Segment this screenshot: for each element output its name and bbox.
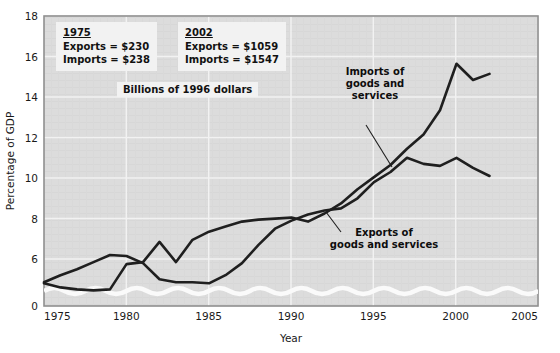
x-axis-tick-labels: 1975 1980 1985 1990 1995 2000 2005 bbox=[44, 310, 538, 322]
annotation-2002-imports: Imports = $1547 bbox=[185, 53, 279, 66]
x-tick-1990: 1990 bbox=[278, 310, 305, 322]
series-label-exports-line2: goods and services bbox=[330, 239, 438, 250]
units-caption: Billions of 1996 dollars bbox=[117, 82, 258, 97]
x-tick-1980: 1980 bbox=[113, 310, 140, 322]
annotation-box-2002: 2002 Exports = $1059 Imports = $1547 bbox=[178, 22, 286, 71]
x-tick-1975: 1975 bbox=[44, 310, 71, 322]
y-axis-tick-labels: 18 16 14 12 10 8 6 0 bbox=[25, 10, 39, 312]
x-tick-1995: 1995 bbox=[360, 310, 387, 322]
series-label-exports: Exports of goods and services bbox=[319, 227, 449, 251]
y-tick-14: 14 bbox=[25, 91, 39, 103]
y-tick-12: 12 bbox=[25, 132, 38, 144]
y-tick-zero: 0 bbox=[31, 300, 38, 312]
annotation-1975-imports: Imports = $238 bbox=[63, 53, 150, 66]
y-tick-16: 16 bbox=[25, 51, 39, 63]
x-tick-2000: 2000 bbox=[442, 310, 469, 322]
series-label-imports-line2: goods and bbox=[346, 78, 405, 89]
series-label-imports-line3: services bbox=[352, 90, 398, 101]
annotation-1975-exports: Exports = $230 bbox=[63, 40, 150, 53]
x-axis-title: Year bbox=[279, 332, 303, 344]
x-tick-1985: 1985 bbox=[195, 310, 222, 322]
figure-container: 18 16 14 12 10 8 6 0 1975 1980 1985 1990… bbox=[0, 0, 560, 353]
series-label-imports: Imports of goods and services bbox=[330, 66, 420, 102]
y-axis-title: Percentage of GDP bbox=[4, 112, 16, 210]
annotation-box-1975: 1975 Exports = $230 Imports = $238 bbox=[56, 22, 157, 71]
y-tick-6: 6 bbox=[31, 253, 38, 265]
annotation-1975-year: 1975 bbox=[63, 26, 150, 39]
x-tick-2005: 2005 bbox=[511, 310, 538, 322]
y-tick-18: 18 bbox=[25, 10, 38, 22]
series-label-imports-line1: Imports of bbox=[346, 66, 405, 77]
y-tick-10: 10 bbox=[25, 172, 38, 184]
annotation-2002-year: 2002 bbox=[185, 26, 279, 39]
y-tick-8: 8 bbox=[31, 213, 38, 225]
series-label-exports-line1: Exports of bbox=[355, 227, 413, 238]
annotation-2002-exports: Exports = $1059 bbox=[185, 40, 279, 53]
